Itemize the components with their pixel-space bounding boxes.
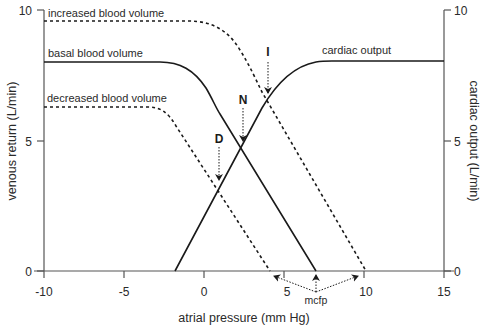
y-right-tick-10: 10 [454, 4, 468, 18]
right-tick-labels: 10 5 0 [454, 4, 468, 279]
x-tick-labels: -10 -5 0 5 10 15 [35, 285, 451, 299]
mcfp-label: mcfp [305, 294, 328, 306]
y-left-tick-0: 0 [25, 265, 32, 279]
x-tick-5: 5 [284, 285, 291, 299]
x-tick-15: 15 [437, 285, 451, 299]
x-tick--5: -5 [119, 285, 130, 299]
y-left-tick-5: 5 [25, 135, 32, 149]
point-D-label: D [215, 132, 224, 146]
cardiac-output-label: cardiac output [322, 44, 391, 56]
y-left-axis-title: venous return (L/min) [5, 82, 19, 201]
venous-return-cardiac-output-chart: 10 5 0 10 5 0 -10 -5 0 5 10 15 atrial pr… [0, 0, 486, 329]
left-tick-labels: 10 5 0 [19, 4, 33, 279]
y-right-tick-0: 0 [454, 265, 461, 279]
y-left-tick-10: 10 [19, 4, 33, 18]
increased-volume-label: increased blood volume [48, 7, 164, 19]
x-axis-title: atrial pressure (mm Hg) [178, 311, 309, 325]
cardiac-output-curve [175, 61, 444, 271]
decreased-volume-curve [44, 107, 270, 271]
point-N-label: N [239, 93, 248, 107]
x-tick-10: 10 [359, 285, 373, 299]
mcfp-arrow-right [316, 276, 358, 292]
mcfp-arrow-left [274, 276, 316, 292]
decreased-volume-label: decreased blood volume [47, 92, 167, 104]
point-I-label: I [266, 45, 269, 59]
y-right-axis-title: cardiac output (L/min) [467, 81, 481, 202]
basal-volume-label: basal blood volume [48, 47, 143, 59]
y-right-tick-5: 5 [454, 135, 461, 149]
x-tick-0: 0 [201, 285, 208, 299]
x-tick--10: -10 [35, 285, 53, 299]
